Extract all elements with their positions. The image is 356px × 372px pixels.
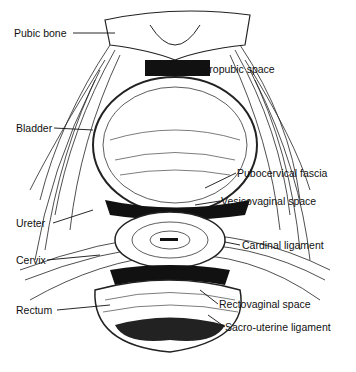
pubic-bone-shape: [105, 11, 250, 60]
label-cervix: Cervix: [16, 254, 46, 266]
label-vesicovaginal-space: Vesicovaginal space: [221, 195, 316, 207]
label-pubic-bone: Pubic bone: [14, 27, 67, 39]
rectum-shape: [95, 280, 241, 352]
label-cardinal-ligament: Cardinal ligament: [242, 239, 324, 251]
label-ureter: Ureter: [16, 217, 45, 229]
label-retropubic-space: Retropubic space: [193, 63, 275, 75]
label-sacro-uterine-ligament: Sacro-uterine ligament: [225, 321, 331, 333]
anatomy-diagram: Pubic bone Retropubic space Bladder Pubo…: [0, 0, 356, 372]
label-rectum: Rectum: [16, 304, 52, 316]
label-bladder: Bladder: [16, 122, 52, 134]
bladder-shape: [93, 77, 257, 213]
anatomy-illustration: [0, 0, 356, 372]
label-rectovaginal-space: Rectovaginal space: [219, 298, 311, 310]
label-pubocervical-fascia: Pubocervical fascia: [237, 167, 327, 179]
